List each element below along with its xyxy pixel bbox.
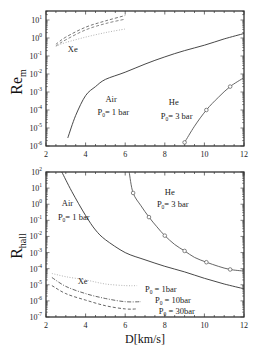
- y-tick-label: 101: [31, 182, 42, 193]
- annotation-label: P0= 1 bar: [58, 212, 90, 223]
- y-tick-label: 10-2: [29, 230, 42, 241]
- x-tick-label: 12: [240, 150, 248, 159]
- y-tick-label: 10-1: [29, 50, 42, 61]
- series-line-xe-p0-1bar: [52, 274, 137, 286]
- y-tick-label: 10-5: [29, 122, 42, 133]
- data-point-marker: [131, 191, 135, 195]
- annotation-label: P0 = 1bar: [145, 284, 177, 295]
- data-point-marker: [205, 260, 209, 264]
- x-tick-label: 2: [44, 150, 48, 159]
- bottom-panel-r-hall: 2468101210210110010-110-210-310-410-510-…: [8, 166, 248, 346]
- annotation-label: Xe: [78, 276, 88, 286]
- data-point-marker: [183, 141, 187, 145]
- annotation-label: He: [165, 187, 175, 197]
- y-axis-title: Rhall: [8, 233, 28, 259]
- y-tick-label: 10-4: [29, 263, 42, 274]
- x-tick-label: 12: [240, 321, 248, 330]
- data-point-marker: [228, 268, 232, 272]
- chart-figure: 2468101210110010-110-210-310-410-510-6Re…: [0, 0, 253, 355]
- data-point-marker: [228, 85, 232, 89]
- x-tick-label: 4: [84, 321, 88, 330]
- y-tick-label: 100: [31, 198, 42, 209]
- series-line-he-p0-3-bar: [129, 172, 244, 271]
- annotation-label: P0= 3 bar: [161, 111, 193, 122]
- annotation-label: Air: [62, 198, 73, 208]
- x-tick-label: 6: [123, 150, 127, 159]
- y-tick-label: 10-2: [29, 68, 42, 79]
- annotation-label: P0 = 30bar: [159, 306, 195, 317]
- y-tick-label: 10-6: [29, 140, 42, 151]
- y-tick-label: 10-7: [29, 311, 42, 322]
- x-tick-label: 10: [200, 321, 208, 330]
- y-tick-label: 102: [31, 166, 42, 177]
- y-tick-label: 10-5: [29, 279, 42, 290]
- x-tick-label: 6: [123, 321, 127, 330]
- x-tick-label: 4: [84, 150, 88, 159]
- y-tick-label: 10-1: [29, 214, 42, 225]
- y-tick-label: 10-4: [29, 104, 42, 115]
- annotation-label: Air: [105, 94, 117, 104]
- x-tick-label: 8: [163, 150, 167, 159]
- plot-frame: [46, 11, 244, 146]
- data-point-marker: [183, 249, 187, 253]
- annotation-label: He: [169, 97, 179, 107]
- y-tick-label: 10-3: [29, 247, 42, 258]
- series-line-air-p0-1-bar: [68, 34, 244, 138]
- y-axis-title: Rem: [8, 69, 28, 95]
- annotation-label: P0= 1 bar: [97, 107, 129, 118]
- annotation-label: P0= 3 bar: [157, 199, 189, 210]
- series-line-he-p0-3-bar: [185, 78, 244, 143]
- y-tick-label: 10-3: [29, 86, 42, 97]
- y-tick-label: 101: [31, 14, 42, 25]
- data-point-marker: [147, 215, 151, 219]
- plot-frame: [46, 172, 244, 317]
- series-line-xe-p0-10bar: [52, 278, 141, 302]
- data-point-marker: [205, 108, 209, 112]
- series-line-air-p0-1-bar: [62, 172, 244, 289]
- y-tick-label: 100: [31, 32, 42, 43]
- x-tick-label: 10: [200, 150, 208, 159]
- annotation-label: Xe: [68, 44, 78, 54]
- x-tick-label: 2: [44, 321, 48, 330]
- top-panel-re-m: 2468101210110010-110-210-310-410-510-6Re…: [8, 11, 248, 159]
- y-tick-label: 10-6: [29, 295, 42, 306]
- annotation-label: P0 = 10bar: [155, 295, 191, 306]
- data-point-marker: [163, 234, 167, 238]
- x-axis-title: D[km/s]: [125, 332, 165, 346]
- series-line-xe-dotted: [56, 29, 125, 46]
- series-line-xe-p0-30bar: [52, 286, 137, 310]
- x-tick-label: 8: [163, 321, 167, 330]
